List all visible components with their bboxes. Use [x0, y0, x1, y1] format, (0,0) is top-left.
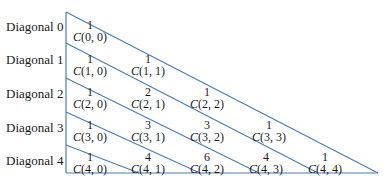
cell-c-2-1: 2 C(2, 1): [123, 86, 173, 110]
cell-label: C(0, 0): [65, 31, 115, 43]
row-label-diagonal-0: Diagonal 0: [6, 19, 63, 35]
cell-label: C(2, 1): [123, 98, 173, 110]
cell-c-2-0: 1 C(2, 0): [65, 86, 115, 110]
cell-label: C(3, 3): [244, 131, 294, 143]
cell-c-3-3: 1 C(3, 3): [244, 119, 294, 143]
cell-c-4-0: 1 C(4, 0): [65, 151, 115, 175]
cell-label: C(1, 1): [123, 65, 173, 77]
cell-c-3-1: 3 C(3, 1): [123, 119, 173, 143]
cell-label: C(3, 2): [182, 131, 232, 143]
cell-label: C(3, 0): [65, 131, 115, 143]
cell-c-4-2: 6 C(4, 2): [182, 151, 232, 175]
row-label-diagonal-2: Diagonal 2: [6, 86, 63, 102]
cell-label: C(4, 0): [65, 163, 115, 175]
cell-label: C(4, 1): [123, 163, 173, 175]
row-label-diagonal-1: Diagonal 1: [6, 52, 63, 68]
cell-c-3-2: 3 C(3, 2): [182, 119, 232, 143]
row-label-diagonal-4: Diagonal 4: [6, 153, 63, 169]
cell-label: C(3, 1): [123, 131, 173, 143]
cell-c-4-1: 4 C(4, 1): [123, 151, 173, 175]
cell-label: C(4, 2): [182, 163, 232, 175]
pascal-triangle-diagram: Diagonal 0 Diagonal 1 Diagonal 2 Diagona…: [0, 0, 389, 184]
cell-label: C(2, 2): [182, 98, 232, 110]
cell-label: C(4, 4): [300, 163, 350, 175]
row-label-diagonal-3: Diagonal 3: [6, 120, 63, 136]
cell-c-2-2: 1 C(2, 2): [182, 86, 232, 110]
cell-c-4-3: 4 C(4, 3): [241, 151, 291, 175]
cell-c-3-0: 1 C(3, 0): [65, 119, 115, 143]
cell-label: C(4, 3): [241, 163, 291, 175]
cell-c-4-4: 1 C(4, 4): [300, 151, 350, 175]
cell-c-0-0: 1 C(0, 0): [65, 19, 115, 43]
cell-c-1-1: 1 C(1, 1): [123, 53, 173, 77]
cell-c-1-0: 1 C(1, 0): [65, 53, 115, 77]
cell-label: C(2, 0): [65, 98, 115, 110]
cell-label: C(1, 0): [65, 65, 115, 77]
